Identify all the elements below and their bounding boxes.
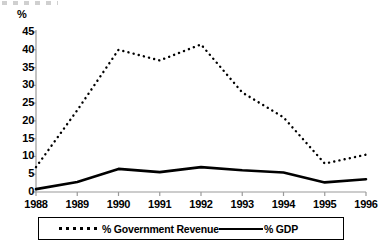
chart-legend: % Government Revenue % GDP <box>38 217 344 240</box>
x-axis-tick-label: 1991 <box>143 198 177 210</box>
y-axis-tick-label: 35 <box>10 62 34 73</box>
y-axis-tick-label: 10 <box>10 150 34 161</box>
legend-item-government-revenue: % Government Revenue <box>57 218 219 239</box>
series-group <box>36 44 366 189</box>
y-axis-tick-label: 20 <box>10 115 34 126</box>
solid-line-swatch-icon <box>219 228 263 230</box>
y-axis-tick-label: 45 <box>10 26 34 37</box>
x-axis-tick-labels: 198819891990199119921993199419951996 <box>0 196 371 214</box>
y-axis-tick-label: 30 <box>10 79 34 90</box>
x-axis-tick-label: 1996 <box>349 198 383 210</box>
x-axis-tick-label: 1993 <box>225 198 259 210</box>
x-axis-tick-label: 1994 <box>267 198 301 210</box>
y-axis-tick-label: 25 <box>10 97 34 108</box>
x-axis-tick-label: 1992 <box>184 198 218 210</box>
series-line-government-revenue <box>36 44 366 167</box>
x-axis-tick-label: 1990 <box>102 198 136 210</box>
series-line-gdp <box>36 167 366 189</box>
legend-item-gdp: % GDP <box>219 218 298 239</box>
y-axis-tick-label: 40 <box>10 44 34 55</box>
x-axis-tick-label: 1995 <box>308 198 342 210</box>
x-axis-tick-label: 1989 <box>60 198 94 210</box>
legend-label-gdp: % GDP <box>264 223 298 235</box>
legend-label-government-revenue: % Government Revenue <box>102 223 219 235</box>
axes-group <box>32 30 366 196</box>
y-axis-tick-label: 15 <box>10 133 34 144</box>
y-axis-tick-label: 5 <box>10 168 34 179</box>
x-axis-tick-label: 1988 <box>19 198 53 210</box>
dotted-line-swatch-icon <box>57 227 101 230</box>
